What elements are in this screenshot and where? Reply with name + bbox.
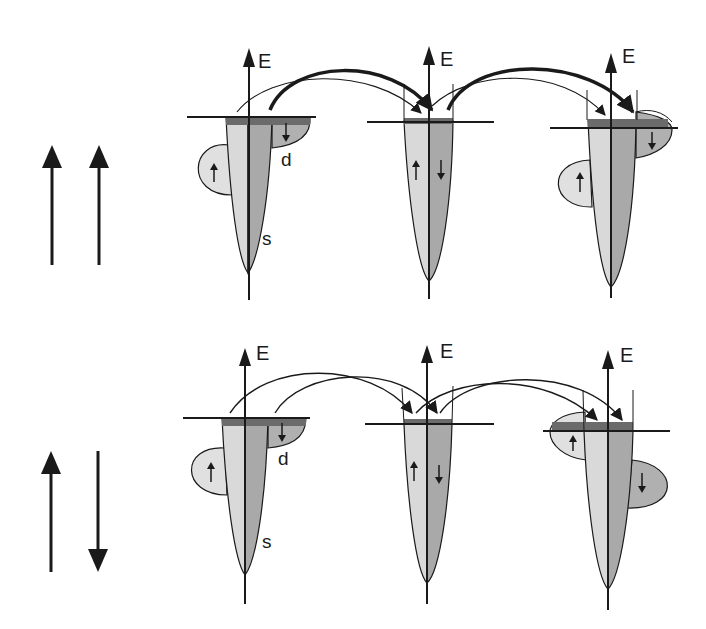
- thick-transfer-arrow: [448, 69, 633, 112]
- d-band-down-lobe: [636, 112, 672, 158]
- s-band-down: [608, 431, 633, 589]
- d-band-up-lobe: [191, 448, 227, 495]
- energy-axis-label: E: [440, 48, 453, 70]
- energy-axis-label: E: [620, 344, 633, 366]
- d-band-down-lobe: [627, 460, 667, 508]
- magnetization-up-arrow: [89, 145, 109, 265]
- s-band-up: [584, 431, 608, 589]
- d-band-up-lobe: [558, 160, 592, 207]
- d-band-label: d: [278, 448, 289, 469]
- band-diagram: E d s E E: [0, 0, 706, 629]
- band-panel-bottom-left: E d s: [183, 342, 310, 604]
- filled-states: [226, 117, 310, 125]
- energy-axis-label: E: [256, 342, 269, 364]
- energy-axis-arrowhead: [605, 53, 617, 73]
- s-band-label: s: [262, 228, 272, 249]
- energy-axis-label: E: [622, 45, 635, 67]
- magnetization-up-arrow: [41, 451, 61, 572]
- s-band-down: [429, 121, 453, 281]
- band-panel-top-right: E: [550, 45, 678, 298]
- energy-axis-arrowhead: [239, 348, 251, 366]
- energy-axis-label: E: [258, 50, 271, 72]
- energy-axis-label: E: [440, 340, 453, 362]
- d-band-up-lobe: [550, 412, 586, 460]
- d-band-label: d: [281, 149, 292, 170]
- band-panel-top-middle: E: [367, 46, 494, 299]
- thin-transfer-arrow: [275, 377, 437, 413]
- energy-axis-arrowhead: [243, 48, 255, 67]
- s-band-label: s: [262, 531, 272, 552]
- magnetization-parallel: [42, 145, 109, 265]
- s-band-up: [404, 121, 429, 281]
- thick-transfer-arrow: [270, 71, 432, 110]
- thin-transfer-arrow: [230, 373, 412, 413]
- magnetization-down-arrow: [88, 451, 108, 572]
- filled-states: [552, 422, 633, 431]
- magnetization-antiparallel: [41, 451, 108, 572]
- s-band-down: [427, 424, 452, 583]
- band-panel-top-left: E d s: [187, 48, 316, 300]
- s-band-down: [248, 117, 272, 273]
- filled-states: [222, 418, 306, 426]
- thin-transfer-arrow: [440, 380, 622, 420]
- s-band-up: [404, 424, 427, 583]
- thin-transfer-arrow: [237, 79, 421, 113]
- magnetization-up-arrow: [42, 145, 62, 265]
- energy-axis-arrowhead: [421, 345, 433, 363]
- s-band-down: [611, 120, 636, 287]
- transfer-arrows-top: [237, 69, 672, 122]
- energy-axis-arrowhead: [423, 46, 435, 65]
- s-band-up: [222, 418, 245, 575]
- energy-axis-arrowhead: [602, 350, 614, 369]
- filled-states: [588, 119, 668, 128]
